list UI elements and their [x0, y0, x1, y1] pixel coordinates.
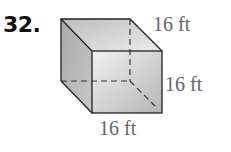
height-label: 16 ft: [165, 74, 202, 94]
depth-label: 16 ft: [153, 14, 190, 34]
width-label: 16 ft: [99, 118, 136, 138]
cube-front-face: [92, 51, 162, 113]
